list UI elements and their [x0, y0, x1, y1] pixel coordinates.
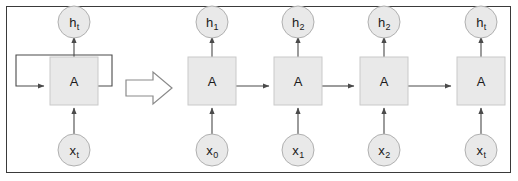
folded-cell-box	[50, 57, 98, 105]
unrolled-output-node-1	[196, 6, 228, 38]
unrolled-cell-box-2	[274, 57, 322, 105]
unrolled-output-node-3	[368, 6, 400, 38]
unrolled-cell-box-1	[188, 57, 236, 105]
unrolled-cell-box-3	[360, 57, 408, 105]
right-arrow-icon	[126, 72, 172, 104]
unrolled-input-node-2	[282, 134, 314, 166]
unrolled-cell-box-4	[457, 57, 505, 105]
diagram-canvas	[0, 0, 518, 181]
unrolled-output-node-2	[282, 6, 314, 38]
unrolled-output-node-4	[465, 6, 497, 38]
unrolled-rnn-group	[188, 6, 505, 166]
folded-rnn-group	[16, 6, 112, 166]
unrolled-input-node-3	[368, 134, 400, 166]
rnn-unrolling-diagram: ht A xt h1 A x0 h2 A x1 h2 A x2 ht A xt	[0, 0, 518, 181]
unrolled-input-node-1	[196, 134, 228, 166]
folded-input-node	[58, 134, 90, 166]
folded-output-node	[58, 6, 90, 38]
unrolled-input-node-4	[465, 134, 497, 166]
